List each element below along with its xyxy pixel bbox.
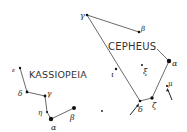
star-chart: CEPHEUS KASSIOPEIA γ β α ζ δ ι ξ μ ε δ γ… — [0, 0, 187, 132]
constellation-name-kassiopeia: KASSIOPEIA — [29, 69, 87, 80]
cepheus-lines — [87, 15, 169, 101]
star-cep-xi — [141, 64, 143, 66]
star-cep-beta — [138, 31, 141, 34]
label-cas-gamma: γ — [47, 89, 52, 98]
star-cas-gamma — [44, 95, 47, 98]
star-cep-zeta — [150, 96, 153, 99]
star-cas-eta — [46, 111, 48, 113]
star-cas-epsilon — [19, 67, 21, 69]
label-cep-delta: δ — [138, 105, 143, 114]
label-cas-alpha: α — [51, 123, 57, 132]
label-cas-delta: δ — [18, 89, 23, 98]
line-delta-gamma — [27, 92, 45, 96]
label-cep-xi: ξ — [143, 67, 148, 76]
label-cep-iota: ι — [111, 70, 114, 79]
label-cep-beta: β — [140, 25, 145, 33]
line-zeta-alpha — [152, 61, 169, 98]
star-field — [101, 110, 103, 112]
line-gamma-beta — [87, 15, 139, 32]
constellation-name-cepheus: CEPHEUS — [108, 41, 156, 52]
line-delta-zeta — [140, 98, 152, 101]
line-gamma-delta — [87, 15, 140, 101]
label-cep-mu: μ — [168, 80, 173, 88]
star-cep-alpha — [167, 59, 171, 63]
label-cep-alpha: α — [172, 59, 178, 68]
star-cep-gamma — [86, 14, 89, 17]
line-alpha-label — [157, 49, 169, 61]
line-gamma-eta — [45, 96, 47, 112]
label-cas-beta: β — [69, 113, 75, 122]
label-cas-eta: η — [38, 109, 43, 117]
star-cep-delta — [139, 100, 142, 103]
star-cep-iota — [115, 68, 117, 70]
cepheus-stars — [86, 14, 172, 103]
star-cas-delta — [26, 91, 29, 94]
label-cep-gamma: γ — [80, 11, 85, 20]
label-cas-epsilon: ε — [12, 66, 15, 73]
arrow-mu-cephei-icon — [166, 88, 172, 100]
star-cas-alpha — [49, 117, 53, 121]
label-cep-zeta: ζ — [152, 101, 157, 110]
star-cas-beta — [72, 106, 76, 110]
